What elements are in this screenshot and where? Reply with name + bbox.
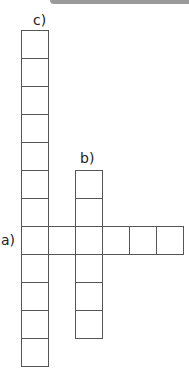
grid-cell[interactable] bbox=[21, 226, 49, 255]
grid-cell[interactable] bbox=[75, 310, 103, 339]
label-a: a) bbox=[1, 232, 15, 248]
top-bar bbox=[50, 0, 189, 4]
grid-cell[interactable] bbox=[21, 30, 49, 59]
grid-cell[interactable] bbox=[21, 310, 49, 339]
grid-cell[interactable] bbox=[21, 58, 49, 87]
grid-cell[interactable] bbox=[21, 282, 49, 311]
grid-cell[interactable] bbox=[48, 226, 76, 255]
grid-cell[interactable] bbox=[75, 226, 103, 255]
label-c: c) bbox=[33, 12, 46, 28]
grid-cell[interactable] bbox=[21, 86, 49, 115]
grid-cell[interactable] bbox=[21, 170, 49, 199]
grid-cell[interactable] bbox=[129, 226, 157, 255]
grid-cell[interactable] bbox=[156, 226, 184, 255]
grid-cell[interactable] bbox=[75, 282, 103, 311]
grid-cell[interactable] bbox=[75, 198, 103, 227]
grid-cell[interactable] bbox=[102, 226, 130, 255]
grid-cell[interactable] bbox=[21, 114, 49, 143]
grid-cell[interactable] bbox=[21, 338, 49, 367]
grid-cell[interactable] bbox=[21, 254, 49, 283]
grid-cell[interactable] bbox=[21, 198, 49, 227]
grid-cell[interactable] bbox=[75, 170, 103, 199]
label-b: b) bbox=[80, 150, 94, 166]
grid-cell[interactable] bbox=[21, 142, 49, 171]
grid-cell[interactable] bbox=[75, 254, 103, 283]
